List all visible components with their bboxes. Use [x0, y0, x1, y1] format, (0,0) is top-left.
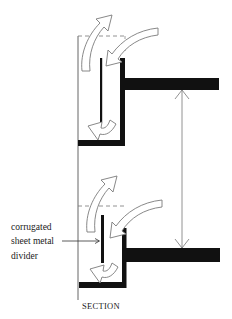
lower-inflow-arrow-icon [110, 200, 162, 238]
section-title: SECTION [82, 301, 120, 311]
lower-uturn-arrow-icon [90, 263, 118, 283]
upper-inflow-arrow-icon [106, 28, 158, 66]
lower-planter-base [79, 282, 126, 288]
annotation-line-1: corrugated [11, 222, 52, 232]
section-diagram: corrugated sheet metal divider SECTION [0, 0, 232, 319]
upper-uturn-arrow-icon [88, 120, 116, 140]
annotation-line-2: sheet metal [11, 236, 54, 246]
annotation-line-3: divider [11, 251, 39, 261]
upper-planter-base [78, 140, 125, 146]
floor-to-floor-dimension [175, 90, 189, 248]
upper-divider [100, 58, 102, 122]
divider-annotation: corrugated sheet metal divider [11, 222, 100, 261]
upper-planter-wall [120, 58, 125, 146]
lower-unit [78, 176, 220, 288]
lower-divider [101, 215, 104, 263]
upper-floor-slab [122, 78, 219, 90]
upper-unit [78, 15, 219, 146]
lower-floor-slab [122, 248, 220, 262]
